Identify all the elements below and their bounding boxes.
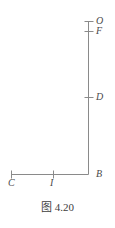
point-label-F: F	[96, 26, 102, 36]
diagram-tick-marks	[12, 22, 94, 179]
figure-4-20: O F D B C I 图 4.20	[0, 0, 115, 228]
diagram-lines	[11, 21, 89, 175]
point-label-I: I	[50, 178, 53, 188]
point-label-B: B	[96, 169, 102, 179]
point-label-C: C	[8, 178, 15, 188]
point-label-D: D	[96, 92, 103, 102]
figure-caption: 图 4.20	[0, 201, 115, 214]
